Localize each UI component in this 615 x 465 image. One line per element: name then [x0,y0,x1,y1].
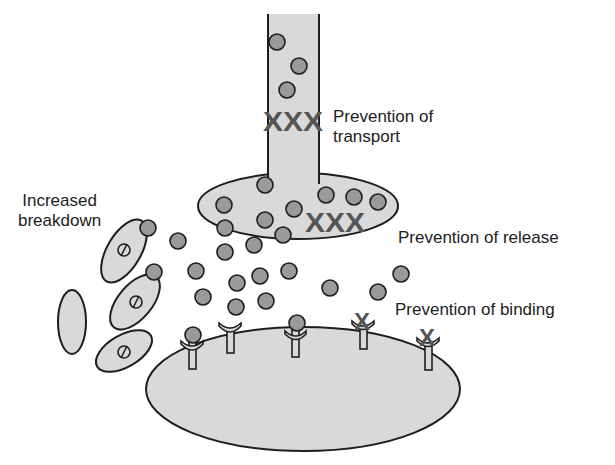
molecule [291,58,307,74]
molecule [322,280,338,296]
molecule [286,201,302,217]
molecule [275,227,291,243]
molecule [217,244,233,260]
molecule [195,289,211,305]
molecule [370,194,386,210]
label-line: breakdown [18,211,101,231]
molecule-bound [185,327,201,343]
release-blocker: XXX [305,208,365,238]
transport-blocker: XXX [263,107,323,137]
molecule [257,212,273,228]
label-line: Increased [18,191,101,211]
label-prevention-of-transport: Prevention of transport [333,107,433,147]
label-prevention-of-release: Prevention of release [398,228,559,248]
molecule [252,268,268,284]
molecule [146,264,162,280]
molecule [269,34,285,50]
molecule [318,187,334,203]
label-line: Prevention of [333,107,433,127]
molecule [140,220,156,236]
molecule [393,266,409,282]
receptor-blocker: X [354,308,370,335]
molecule [229,275,245,291]
molecule [228,299,244,315]
label-line: transport [333,127,433,147]
molecule [346,189,362,205]
molecule [279,82,295,98]
molecule [370,284,386,300]
molecule [216,197,232,213]
label-prevention-of-binding: Prevention of binding [395,300,555,320]
molecule [281,263,297,279]
molecule [188,263,204,279]
molecule-bound [289,315,305,331]
molecule [170,233,186,249]
molecule [257,177,273,193]
label-increased-breakdown: Increased breakdown [18,191,101,231]
molecule [246,237,262,253]
molecule [258,293,274,309]
receptor-blocker: X [419,324,435,351]
molecule [217,220,233,236]
enzyme-empty [58,290,86,354]
